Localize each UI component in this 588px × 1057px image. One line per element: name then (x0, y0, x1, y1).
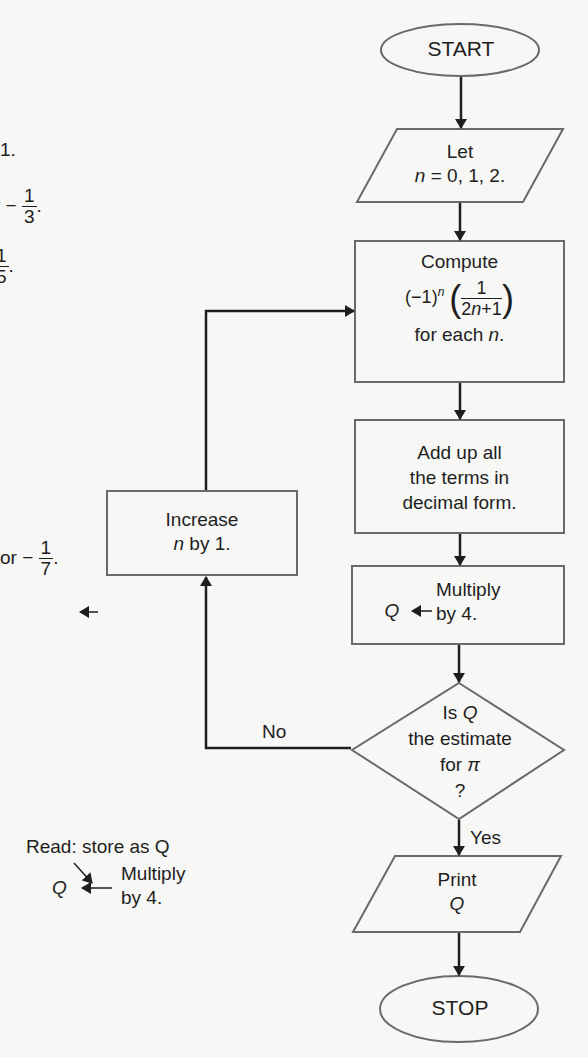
add-line1: Add up all (355, 440, 564, 465)
decision-for: for (440, 754, 467, 775)
fraction-denominator: 2n+1 (461, 299, 502, 319)
note-3-fraction: 15 (0, 246, 9, 287)
let-values: = 0, 1, 2. (425, 165, 505, 186)
multiply-step: Multiply by 4. (436, 578, 500, 626)
legend-line2: by 4. (121, 886, 185, 910)
note-4-prefix: or − (0, 547, 33, 568)
increase-var: n (173, 533, 184, 554)
add-line3: decimal form. (355, 490, 564, 515)
num: 1 (39, 538, 54, 559)
num: 1 (0, 246, 9, 267)
legend-read: Read: store as Q (26, 835, 170, 859)
den: 5 (0, 267, 9, 287)
print-step: Print Q (357, 868, 557, 916)
compute-formula: (−1)n (12n+1) (355, 278, 564, 319)
compute-period: . (499, 324, 504, 345)
pi-symbol: π (467, 754, 480, 775)
decision-question-mark: ? (380, 778, 540, 804)
legend-q: Q (52, 876, 67, 900)
compute-label: Compute (355, 250, 564, 274)
fraction-numerator: 1 (461, 278, 502, 299)
note-3: 15. (0, 246, 14, 287)
no-label: No (262, 720, 286, 744)
note-1: 1. (0, 138, 16, 162)
legend-multiply: Multiply by 4. (121, 862, 185, 910)
compute-var: n (489, 324, 500, 345)
multiply-line2: by 4. (436, 602, 500, 626)
print-q: Q (357, 892, 557, 916)
den-var: n (471, 299, 481, 319)
den: 3 (22, 207, 37, 227)
print-line1: Print (357, 868, 557, 892)
legend-line1: Multiply (121, 862, 185, 886)
let-step: Let n = 0, 1, 2. (360, 140, 560, 188)
let-label: Let (360, 140, 560, 164)
formula-fraction: 12n+1 (461, 278, 502, 319)
note-2: r − 13. (0, 186, 42, 227)
den-a: 2 (461, 299, 471, 319)
multiply-line1: Multiply (436, 578, 500, 602)
multiply-q: Q (382, 599, 402, 623)
compute-step: Compute (−1)n (12n+1) for each n. (355, 250, 564, 347)
increase-line1: Increase (107, 508, 297, 532)
add-line2: the terms in (355, 465, 564, 490)
stop-label: STOP (380, 996, 540, 1020)
decision-q: Q (463, 702, 478, 723)
decision-line2: the estimate (380, 726, 540, 752)
start-label: START (381, 37, 541, 61)
den-b: +1 (481, 299, 502, 319)
increase-step: Increase n by 1. (107, 508, 297, 556)
let-var: n (415, 165, 426, 186)
increase-line2: by 1. (184, 533, 230, 554)
note-2-fraction: 13 (22, 186, 37, 227)
note-2-prefix: r − (0, 195, 17, 216)
num: 1 (22, 186, 37, 207)
compute-foreach: for each (415, 324, 489, 345)
note-4-fraction: 17 (39, 538, 54, 579)
formula-prefix: (−1) (405, 287, 438, 307)
decision-step: Is Q the estimate for π ? (380, 700, 540, 804)
den: 7 (39, 559, 54, 579)
add-step: Add up all the terms in decimal form. (355, 440, 564, 515)
decision-is: Is (443, 702, 463, 723)
note-4: or − 17. (0, 538, 58, 579)
formula-exponent: n (438, 285, 445, 299)
yes-label: Yes (470, 826, 501, 850)
